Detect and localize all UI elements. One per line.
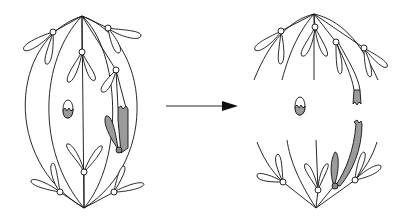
chromosome	[111, 166, 144, 195]
transition-arrow	[166, 101, 238, 111]
diagram-canvas	[0, 0, 402, 219]
chromosome	[105, 25, 141, 53]
chromosome	[304, 164, 328, 193]
chromosome	[255, 28, 284, 64]
right-spindle	[254, 14, 387, 208]
chromosome	[67, 144, 103, 175]
acentric-fragment	[295, 97, 305, 115]
chromosome	[67, 49, 95, 82]
chromosome	[333, 39, 360, 90]
left-spindle	[23, 16, 144, 208]
chromosome	[23, 29, 56, 64]
chromosome	[101, 67, 126, 108]
broken-chromosome-top	[353, 90, 361, 105]
chromosome	[31, 163, 63, 195]
acentric-fragment	[63, 100, 73, 118]
broken-chromosome	[105, 106, 128, 153]
